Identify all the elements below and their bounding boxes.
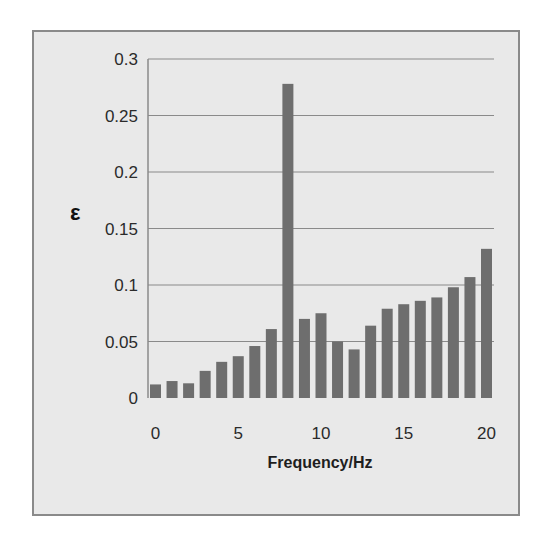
bar [150, 384, 161, 398]
bar [349, 349, 360, 398]
x-axis-ticks: 05101520 [151, 424, 496, 443]
y-tick-label: 0.2 [114, 163, 138, 182]
bar [299, 319, 310, 398]
y-axis-ticks: 00.050.10.150.20.250.3 [105, 50, 138, 408]
y-tick-label: 0 [129, 389, 138, 408]
bar [448, 287, 459, 398]
x-tick-label: 20 [477, 424, 496, 443]
y-tick-label: 0.3 [114, 50, 138, 69]
bar [464, 277, 475, 398]
bar [183, 383, 194, 398]
y-tick-label: 0.05 [105, 333, 138, 352]
bar [398, 304, 409, 398]
y-axis-label: ε [70, 200, 81, 225]
bar [431, 297, 442, 398]
bar [382, 309, 393, 398]
y-tick-label: 0.25 [105, 107, 138, 126]
x-axis-label: Frequency/Hz [268, 454, 373, 471]
bar [415, 301, 426, 398]
bar [365, 326, 376, 398]
y-tick-label: 0.15 [105, 220, 138, 239]
x-tick-label: 15 [394, 424, 413, 443]
x-tick-label: 5 [234, 424, 243, 443]
x-tick-label: 10 [312, 424, 331, 443]
bar [332, 342, 343, 399]
bars [150, 84, 492, 398]
y-tick-label: 0.1 [114, 276, 138, 295]
bar [282, 84, 293, 398]
bar [233, 356, 244, 398]
bar [249, 346, 260, 398]
bar [266, 329, 277, 398]
bar [316, 313, 327, 398]
bar [200, 371, 211, 398]
x-tick-label: 0 [151, 424, 160, 443]
bar [216, 362, 227, 398]
bar [481, 249, 492, 398]
bar [167, 381, 178, 398]
bar-chart: 00.050.10.150.20.250.3 05101520 ε Freque… [0, 0, 540, 539]
